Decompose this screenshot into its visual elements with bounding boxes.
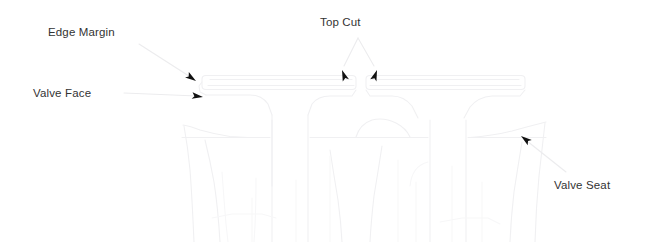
arrowhead-edge-margin [185, 72, 198, 84]
label-top-cut: Top Cut [320, 15, 361, 29]
label-valve-seat: Valve Seat [554, 178, 610, 192]
left-valve-seat-profile [183, 125, 248, 242]
leader-valve-face [124, 93, 197, 96]
valve-diagram: Edge Margin Valve Face Top Cut Valve Sea… [0, 0, 649, 242]
label-edge-margin: Edge Margin [48, 25, 115, 39]
left-valve-stem [272, 115, 308, 242]
leader-edge-margin [139, 44, 192, 78]
leader-arrowheads [185, 69, 532, 145]
label-valve-face: Valve Face [33, 86, 91, 100]
leader-lines [124, 38, 566, 172]
lower-port-outlines [212, 156, 500, 242]
leader-top-cut-left [344, 38, 358, 66]
right-valve-head [366, 76, 525, 119]
left-valve-head [199, 76, 356, 116]
valve-assembly-geometry [182, 76, 546, 242]
leader-valve-seat [527, 141, 566, 172]
leader-top-cut-right [358, 38, 374, 66]
right-valve-stem [430, 120, 466, 242]
right-valve-seat-profile [470, 122, 546, 242]
